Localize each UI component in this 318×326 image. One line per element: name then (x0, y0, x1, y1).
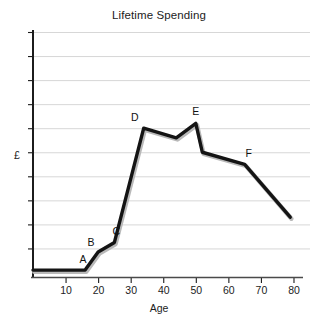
x-axis-tick-label: 10 (54, 284, 78, 296)
x-axis-title: Age (0, 302, 318, 314)
data-point-label-b: B (83, 236, 99, 248)
x-axis-tick-label: 20 (87, 284, 111, 296)
x-axis-tick-marks (66, 278, 294, 283)
data-point-label-d: D (127, 111, 143, 123)
data-point-label-e: E (188, 105, 204, 117)
x-axis-tick-label: 80 (282, 284, 306, 296)
x-axis-tick-label: 60 (217, 284, 241, 296)
chart-container: Lifetime Spending 1020304050607080 Age £… (0, 0, 318, 326)
gridlines (33, 33, 310, 249)
line-chart-plot (0, 0, 318, 326)
data-line-spending (33, 123, 290, 270)
data-point-label-a: A (75, 253, 91, 265)
x-axis-tick-label: 30 (119, 284, 143, 296)
data-point-label-f: F (241, 147, 257, 159)
x-axis-tick-label: 50 (184, 284, 208, 296)
x-axis-tick-label: 70 (249, 284, 273, 296)
data-point-label-c: C (108, 225, 124, 237)
x-axis-tick-label: 40 (152, 284, 176, 296)
y-axis-title: £ (14, 149, 20, 161)
